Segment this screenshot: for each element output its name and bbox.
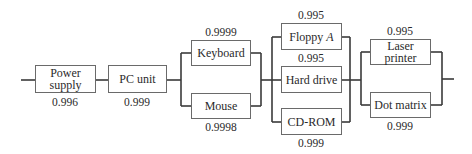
pc-unit-block: PC unit <box>108 65 167 93</box>
keyboard-label: Keyboard <box>197 47 244 59</box>
keyboard-reliability: 0.9999 <box>186 26 256 38</box>
power-supply-block: Power supply <box>35 65 96 93</box>
hard-drive-label: Hard drive <box>286 74 338 86</box>
cd-rom-reliability: 0.999 <box>276 137 346 149</box>
laser-printer-reliability: 0.995 <box>365 25 435 37</box>
power-supply-label-line2: supply <box>49 79 81 91</box>
laser-printer-label: Laser printer <box>371 40 430 64</box>
cd-rom-label: CD-ROM <box>287 116 335 128</box>
dot-matrix-block: Dot matrix <box>370 92 431 118</box>
mouse-block: Mouse <box>191 93 251 119</box>
laser-printer-block: Laser printer <box>370 39 431 65</box>
pc-unit-label: PC unit <box>119 73 155 85</box>
dot-matrix-label: Dot matrix <box>374 99 426 111</box>
floppy-block: Floppy A <box>281 23 342 50</box>
mouse-reliability: 0.9998 <box>186 121 256 133</box>
hard-drive-reliability: 0.995 <box>276 52 346 64</box>
pc-unit-reliability: 0.999 <box>102 96 172 108</box>
cd-rom-block: CD-ROM <box>281 108 342 135</box>
power-supply-reliability: 0.996 <box>30 96 100 108</box>
floppy-reliability: 0.995 <box>276 9 346 21</box>
floppy-label-italic: A <box>326 31 333 43</box>
hard-drive-block: Hard drive <box>281 66 342 93</box>
mouse-label: Mouse <box>205 100 238 112</box>
floppy-label: Floppy <box>289 31 323 43</box>
keyboard-block: Keyboard <box>191 40 251 66</box>
dot-matrix-reliability: 0.999 <box>365 120 435 132</box>
